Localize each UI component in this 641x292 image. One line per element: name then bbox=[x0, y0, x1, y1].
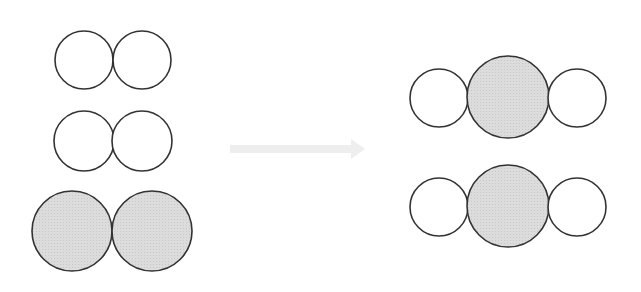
small-molecule-2 bbox=[54, 111, 172, 171]
shaded-atom bbox=[467, 56, 549, 138]
unshaded-atom bbox=[548, 178, 606, 236]
small-molecule-1 bbox=[55, 31, 171, 89]
unshaded-atom bbox=[410, 69, 468, 127]
shaded-atom bbox=[32, 191, 112, 271]
arrow-shaft bbox=[230, 145, 351, 153]
products-group bbox=[410, 56, 606, 247]
arrow-head-icon bbox=[351, 139, 365, 159]
shaded-atom bbox=[112, 191, 192, 271]
unshaded-atom bbox=[548, 69, 606, 127]
product-molecule-1 bbox=[410, 56, 606, 138]
product-molecule-2 bbox=[410, 165, 606, 247]
reaction-diagram bbox=[0, 0, 641, 292]
unshaded-atom bbox=[55, 31, 113, 89]
reactants-group bbox=[32, 31, 192, 271]
shaded-atom bbox=[467, 165, 549, 247]
reaction-arrow bbox=[230, 139, 365, 159]
unshaded-atom bbox=[54, 111, 114, 171]
unshaded-atom bbox=[113, 31, 171, 89]
unshaded-atom bbox=[410, 178, 468, 236]
large-molecule bbox=[32, 191, 192, 271]
unshaded-atom bbox=[112, 111, 172, 171]
